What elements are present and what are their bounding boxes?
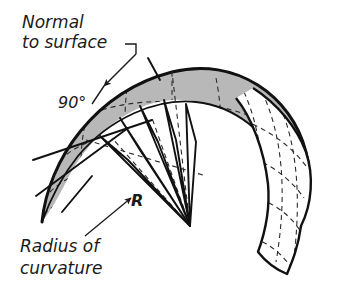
radius-label-line2: curvature	[20, 258, 102, 278]
radius-symbol-label: R	[131, 191, 143, 210]
curvature-diagram: Normal to surface 90° R Radius of curvat…	[0, 0, 357, 295]
right-angle-label: 90°	[58, 93, 86, 112]
diagram-canvas: Normal to surface 90° R Radius of curvat…	[0, 0, 357, 295]
normal-label-line2: to surface	[22, 32, 107, 52]
radius-label-line1: Radius of	[20, 236, 102, 256]
normal-label-line1: Normal	[22, 12, 84, 32]
